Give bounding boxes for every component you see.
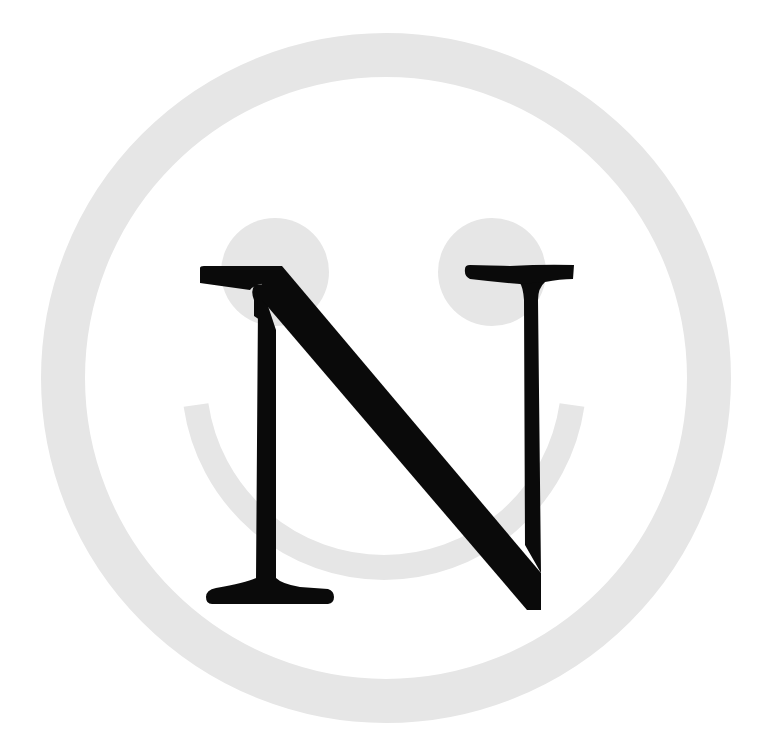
smiley-n-logo bbox=[0, 0, 775, 736]
background bbox=[0, 0, 775, 736]
